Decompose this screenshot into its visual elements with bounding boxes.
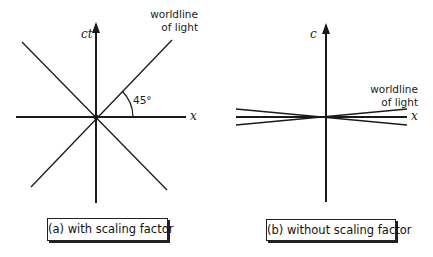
worldline-label: worldline of light (150, 8, 198, 34)
worldline-label-b: worldline of light (368, 83, 418, 109)
worldline-of-light-positive (31, 40, 172, 187)
caption-b: (b) without scaling factor (266, 219, 396, 241)
x-axis-label-b: x (411, 110, 418, 123)
worldline-label-line1: worldline (150, 8, 198, 21)
caption-a: (a) with scaling factor (47, 218, 168, 241)
worldline-label-line1: worldline (368, 83, 418, 96)
diagram-a (16, 22, 186, 203)
x-axis-label: x (190, 110, 197, 123)
angle-arc (122, 91, 133, 117)
ct-axis-label: ct (81, 28, 93, 41)
diagram-b (236, 23, 407, 202)
worldline-label-line2: of light (150, 21, 198, 34)
ct-axis-arrow-icon (92, 22, 100, 33)
origin-point (94, 115, 99, 120)
worldline-label-line2: of light (368, 96, 418, 109)
c-axis-label: c (310, 28, 317, 41)
angle-label: 45° (133, 94, 152, 107)
c-axis-arrow-icon (322, 23, 330, 34)
